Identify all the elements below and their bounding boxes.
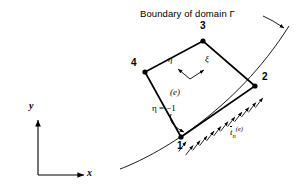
node-dot-3 — [200, 38, 205, 43]
boundary-title-label: Boundary of domain Γ — [140, 9, 235, 19]
node-dot-2 — [252, 83, 257, 88]
node-label-3: 3 — [200, 21, 206, 31]
node-label-1: 1 — [177, 141, 183, 151]
xi-axis-label: ξ — [205, 55, 209, 64]
boundary-curve — [120, 26, 289, 169]
traction-superscript: (e) — [236, 125, 243, 132]
eta-arrow — [178, 69, 190, 79]
eta-axis-label: η — [168, 55, 172, 64]
node-label-4: 4 — [131, 58, 137, 68]
element-label: (e) — [170, 88, 180, 97]
traction-subscript: n — [233, 132, 236, 139]
node-dot-1 — [178, 134, 183, 139]
xi-arrow — [190, 70, 204, 79]
boundary-leader-line — [263, 16, 284, 28]
global-x-label: x — [87, 168, 92, 178]
node-dot-4 — [142, 69, 147, 74]
local-axes-group — [178, 69, 204, 79]
eta-equals-minus-one-label: η = −1 — [152, 104, 176, 113]
figure-canvas: Boundary of domain Γ 3 4 2 1 η ξ (e) η =… — [0, 0, 300, 194]
global-y-label: y — [29, 101, 33, 111]
diagram-svg — [0, 0, 300, 194]
node-label-2: 2 — [262, 72, 268, 82]
global-axes-group — [38, 120, 84, 175]
traction-symbol: t — [230, 127, 233, 137]
traction-label: tn(e) — [230, 126, 243, 139]
